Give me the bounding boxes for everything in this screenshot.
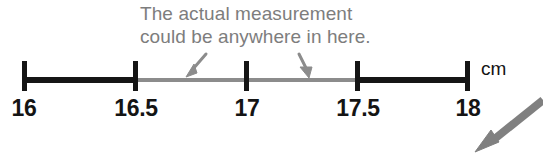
ruler-tick-17 <box>244 61 249 91</box>
ruler-segment-certain-right <box>355 77 469 83</box>
ruler-segment-certain-left <box>24 77 137 83</box>
external-callout-arrow <box>470 96 543 156</box>
ruler-unit-label: cm <box>481 58 506 80</box>
ruler-label-17-5: 17.5 <box>336 95 380 122</box>
ruler-tick-16 <box>22 61 27 91</box>
ruler-axis: 16 16.5 17 17.5 18 cm <box>0 0 543 156</box>
ruler-tick-18 <box>465 61 470 91</box>
ruler-figure: The actual measurement could be anywhere… <box>0 0 543 156</box>
ruler-label-16-5: 16.5 <box>114 95 158 122</box>
ruler-tick-17-5 <box>355 61 360 91</box>
ruler-label-16: 16 <box>12 95 37 122</box>
ruler-label-17: 17 <box>235 95 260 122</box>
ruler-tick-16-5 <box>133 61 138 91</box>
